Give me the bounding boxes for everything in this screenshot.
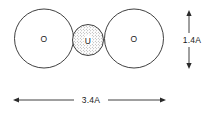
horizontal-dimension-arrow-right bbox=[160, 97, 166, 102]
uranium-center-label: U bbox=[85, 36, 91, 46]
vertical-dimension-arrow-top bbox=[186, 10, 191, 16]
atom-oxygen-left: O bbox=[15, 9, 74, 68]
oxygen-left-label: O bbox=[41, 34, 48, 44]
diagram-canvas: O O U 1.4A 3.4A bbox=[0, 0, 213, 114]
vertical-dimension-group: 1.4A bbox=[183, 10, 202, 69]
horizontal-dimension-label: 3.4A bbox=[82, 95, 101, 105]
horizontal-dimension-group: 3.4A bbox=[13, 95, 166, 105]
horizontal-dimension-arrow-left bbox=[13, 97, 19, 102]
molecular-diagram-figure: O O U 1.4A 3.4A bbox=[0, 0, 213, 114]
oxygen-right-label: O bbox=[131, 34, 138, 44]
atom-uranium-center: U bbox=[73, 25, 104, 56]
vertical-dimension-arrow-bottom bbox=[186, 63, 191, 69]
atom-oxygen-right: O bbox=[105, 9, 164, 68]
vertical-dimension-label: 1.4A bbox=[183, 35, 202, 45]
